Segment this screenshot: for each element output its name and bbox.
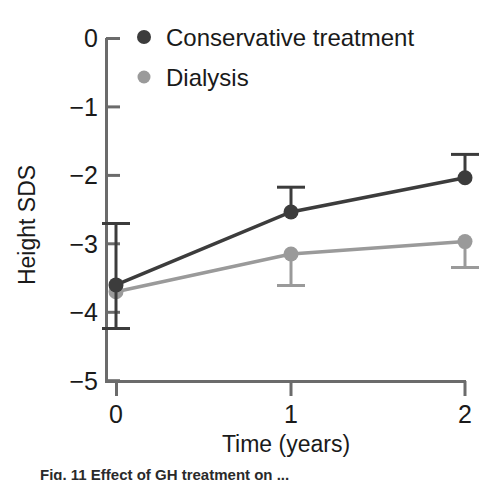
height-sds-line-chart: 0 −1 −2 −3 −4 −5 0 1 2 Height SDS Time (… [0, 0, 497, 481]
conservative-point-year1 [284, 205, 299, 220]
y-tick-label-minus4: −4 [69, 298, 98, 326]
y-tick-label-minus5: −5 [69, 367, 98, 395]
conservative-point-year0 [109, 277, 124, 292]
legend-label-conservative: Conservative treatment [166, 24, 414, 51]
dialysis-point-year1 [284, 247, 299, 262]
conservative-point-year2 [458, 170, 473, 185]
x-tick-label-2: 2 [458, 400, 472, 428]
x-tick-label-1: 1 [284, 400, 298, 428]
chart-legend: Conservative treatment Dialysis [137, 24, 414, 91]
y-tick-label-minus2: −2 [69, 161, 98, 189]
y-tick-label-minus3: −3 [69, 230, 98, 258]
figure-container: 0 −1 −2 −3 −4 −5 0 1 2 Height SDS Time (… [0, 0, 497, 481]
legend-label-dialysis: Dialysis [166, 64, 249, 91]
y-axis-title: Height SDS [14, 165, 40, 285]
y-tick-label-minus1: −1 [69, 93, 98, 121]
x-axis-ticks [117, 381, 466, 396]
y-tick-label-0: 0 [84, 24, 98, 52]
series-conservative-treatment [102, 154, 479, 329]
legend-marker-conservative [137, 30, 151, 44]
x-tick-label-0: 0 [109, 400, 123, 428]
conservative-error-bars [102, 154, 479, 329]
legend-marker-dialysis [138, 71, 151, 84]
dialysis-point-year2 [458, 234, 473, 249]
figure-caption: Fig. 11 Effect of GH treatment on ... [40, 466, 460, 480]
x-axis-title: Time (years) [222, 431, 350, 457]
